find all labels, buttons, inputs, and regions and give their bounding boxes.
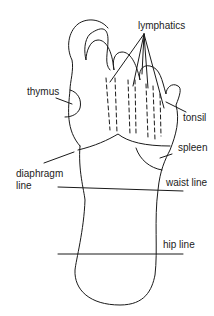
label-lymphatics: lymphatics	[138, 20, 185, 31]
diaphragm-line	[78, 134, 170, 150]
label-hip-line: hip line	[163, 239, 195, 250]
foot-outline	[69, 20, 181, 305]
lymphatics-pointers	[110, 34, 164, 108]
label-spleen: spleen	[178, 142, 207, 153]
waist-line	[58, 187, 183, 191]
label-thymus: thymus	[27, 86, 59, 97]
label-tonsil: tonsil	[183, 112, 206, 123]
lymphatic-dashes	[106, 78, 161, 140]
foot-diagram	[0, 0, 214, 316]
diaphragm-pointer	[44, 152, 74, 163]
spleen-outline	[136, 148, 162, 170]
thymus-outline	[65, 90, 81, 117]
tonsil-pointer	[166, 102, 186, 112]
label-waist-line: waist line	[166, 177, 207, 188]
label-diaphragm: diaphragm	[16, 168, 63, 179]
label-diaphragm-line: line	[16, 180, 32, 191]
